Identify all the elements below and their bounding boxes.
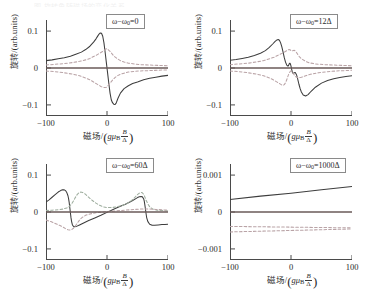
x-axis-label: 磁场/(gμBBΔ): [212, 129, 368, 145]
x-tick-label: −100: [37, 262, 55, 272]
figure-caption-strip: 图 旋转角随磁场的变化关系: [34, 1, 334, 7]
x-tick-label: −100: [221, 262, 239, 272]
y-tick-label: −0.001: [192, 245, 222, 254]
series-solid-rising: [230, 187, 352, 200]
x-tick-label: 0: [289, 262, 293, 272]
x-tick-label: 100: [162, 118, 175, 128]
detuning-annotation: ω−ω0=0: [106, 14, 145, 29]
detuning-annotation: ω−ω0=60Δ: [106, 158, 154, 173]
chart-panel-detuning-0: 旋转/(arb.units)0.10−0.1−1000100磁场/(gμBBΔ)…: [0, 8, 184, 153]
x-axis-label: 磁场/(gμBBΔ): [28, 273, 188, 289]
plot-area: [46, 20, 168, 116]
y-tick-label: 0.1: [8, 27, 38, 36]
x-axis-label: 磁场/(gμBBΔ): [212, 273, 368, 289]
series-dashed-upper: [230, 226, 352, 227]
series-dashed-lower: [230, 70, 352, 85]
x-tick-label: 100: [346, 118, 359, 128]
y-tick-label: 0: [8, 64, 38, 73]
y-tick-label: 0.1: [192, 27, 222, 36]
y-tick-label: 0: [192, 208, 222, 217]
chart-panel-detuning-60delta: 旋转/(arb.units)0.10−0.1−1000100磁场/(gμBBΔ)…: [0, 152, 184, 297]
x-tick-label: −100: [37, 118, 55, 128]
y-tick-label: 0.1: [8, 171, 38, 180]
detuning-annotation: ω−ω0=1000Δ: [290, 158, 346, 173]
series-solid-dispersive: [46, 33, 168, 105]
y-tick-label: −0.1: [192, 101, 222, 110]
plot-area: [230, 164, 352, 260]
detuning-annotation: ω−ω0=12Δ: [290, 14, 338, 29]
plot-area: [46, 164, 168, 260]
y-tick-label: −0.1: [8, 245, 38, 254]
y-tick-label: 0.001: [192, 171, 222, 180]
x-tick-label: 0: [105, 262, 109, 272]
x-axis-label: 磁场/(gμBBΔ): [28, 129, 188, 145]
series-dashed-upper: [46, 192, 168, 211]
x-tick-label: −100: [221, 118, 239, 128]
x-tick-label: 100: [346, 262, 359, 272]
chart-panel-detuning-12delta: 旋转/(arb.units)0.10−0.1−1000100磁场/(gμBBΔ)…: [184, 8, 368, 153]
plot-area: [230, 20, 352, 116]
y-tick-label: 0: [8, 208, 38, 217]
x-tick-label: 0: [105, 118, 109, 128]
chart-panel-detuning-1000delta: 旋转/(arb.units)0.0010−0.001−1000100磁场/(gμ…: [184, 152, 368, 297]
x-tick-label: 100: [162, 262, 175, 272]
x-tick-label: 0: [289, 118, 293, 128]
y-tick-label: −0.1: [8, 101, 38, 110]
series-dashed-lower: [230, 229, 352, 232]
y-tick-label: 0: [192, 64, 222, 73]
figure-root: 图 旋转角随磁场的变化关系 旋转/(arb.units)0.10−0.1−100…: [0, 0, 368, 300]
